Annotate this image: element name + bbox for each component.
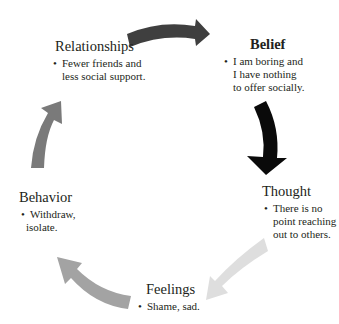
- bullet-icon: •: [53, 57, 57, 70]
- node-title: Feelings: [146, 281, 200, 298]
- node-title: Thought: [262, 183, 336, 200]
- bullet-icon: •: [264, 202, 268, 215]
- arrow-behavior-to-relationships: [31, 101, 62, 168]
- bullet-line: I have nothing: [224, 68, 304, 81]
- bullet-line: to offer socially.: [224, 81, 304, 94]
- node-title: Behavior: [19, 189, 76, 206]
- bullet-line: out to others.: [264, 228, 336, 241]
- bullet-line: •Withdraw,: [21, 208, 76, 221]
- bullet-line: •Shame, sad.: [138, 300, 200, 313]
- bullet-line: less social support.: [53, 70, 145, 83]
- bullet-line: isolate.: [21, 221, 76, 234]
- bullet-icon: •: [21, 208, 25, 221]
- node-thought: Thought •There is no point reaching out …: [264, 183, 336, 241]
- bullet-line: point reaching: [264, 215, 336, 228]
- arrow-feelings-to-behavior: [57, 257, 131, 309]
- node-bullets: •Fewer friends and less social support.: [53, 57, 145, 83]
- node-title: Relationships: [55, 38, 145, 55]
- node-bullets: •I am boring and I have nothing to offer…: [224, 55, 304, 94]
- node-behavior: Behavior •Withdraw, isolate.: [19, 189, 76, 234]
- node-relationships: Relationships •Fewer friends and less so…: [55, 38, 145, 83]
- node-title: Belief: [250, 36, 304, 53]
- bullet-line: •Fewer friends and: [53, 57, 145, 70]
- node-bullets: •There is no point reaching out to other…: [264, 202, 336, 241]
- node-bullets: •Shame, sad.: [138, 300, 200, 313]
- node-feelings: Feelings •Shame, sad.: [138, 281, 200, 313]
- arrow-belief-to-thought: [247, 101, 287, 175]
- node-bullets: •Withdraw, isolate.: [21, 208, 76, 234]
- bullet-line: •I am boring and: [224, 55, 304, 68]
- arrow-thought-to-feelings: [206, 238, 268, 300]
- bullet-icon: •: [138, 300, 142, 313]
- bullet-icon: •: [224, 55, 228, 68]
- bullet-line: •There is no: [264, 202, 336, 215]
- node-belief: Belief •I am boring and I have nothing t…: [224, 36, 304, 94]
